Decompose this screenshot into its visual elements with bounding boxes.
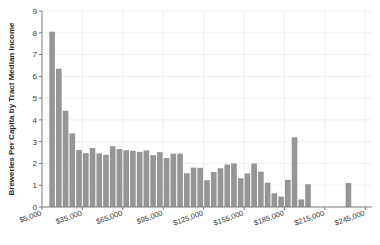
y-tick-label: 7 — [33, 50, 38, 59]
bar — [265, 183, 271, 207]
x-tick-label: $35,000 — [55, 208, 84, 226]
bar — [103, 155, 109, 207]
y-axis-ticks: 0123456789 — [33, 7, 42, 212]
y-tick-label: 3 — [33, 138, 38, 147]
bar — [69, 133, 75, 207]
bar — [56, 69, 62, 207]
bar — [346, 183, 352, 207]
y-tick-label: 9 — [33, 7, 38, 16]
bar — [90, 148, 96, 207]
chart-canvas: 0123456789 $5,000$35,000$65,000$95,000$1… — [0, 0, 380, 245]
bar — [110, 146, 116, 207]
x-tick-label: $125,000 — [172, 208, 204, 227]
bar — [305, 184, 311, 207]
y-tick-label: 4 — [33, 116, 38, 125]
bar — [245, 173, 251, 207]
bar — [157, 152, 163, 207]
bar — [144, 150, 150, 207]
y-tick-label: 5 — [33, 94, 38, 103]
bar — [171, 154, 177, 207]
bar — [292, 137, 298, 207]
y-axis-label: Breweries Per Capita by Tract Median Inc… — [7, 22, 16, 196]
bar — [272, 193, 278, 207]
y-tick-label: 8 — [33, 29, 38, 38]
bar — [224, 165, 230, 207]
bar — [204, 180, 210, 207]
bar — [83, 153, 89, 207]
bar — [298, 199, 304, 207]
bar — [96, 153, 102, 207]
bar — [130, 151, 136, 207]
x-tick-label: $215,000 — [293, 208, 325, 227]
y-tick-label: 2 — [33, 159, 38, 168]
bar — [285, 180, 291, 207]
x-tick-label: $65,000 — [95, 208, 124, 226]
bars — [49, 32, 351, 207]
bar — [63, 111, 69, 207]
bar — [251, 163, 257, 207]
bar — [231, 163, 237, 207]
bar — [117, 149, 123, 207]
brewery-income-bar-chart: 0123456789 $5,000$35,000$65,000$95,000$1… — [0, 0, 380, 245]
x-tick-label: $155,000 — [212, 208, 244, 227]
bar — [76, 150, 82, 207]
bar — [197, 168, 203, 207]
bar — [218, 168, 224, 207]
bar — [164, 158, 170, 207]
x-tick-label: $5,000 — [18, 208, 43, 224]
x-tick-label: $245,000 — [333, 208, 365, 227]
bar — [278, 197, 284, 207]
y-tick-label: 1 — [33, 181, 38, 190]
bar — [137, 152, 143, 207]
x-axis-ticks: $5,000$35,000$65,000$95,000$125,000$155,… — [18, 207, 366, 228]
bar — [177, 154, 183, 207]
bar — [49, 32, 55, 207]
x-tick-label: $185,000 — [253, 208, 285, 227]
bar — [150, 155, 156, 207]
bar — [238, 178, 244, 207]
x-tick-label: $95,000 — [135, 208, 164, 226]
bar — [184, 173, 190, 207]
y-tick-label: 6 — [33, 72, 38, 81]
bar — [123, 150, 129, 207]
bar — [258, 172, 264, 207]
bar — [191, 168, 197, 207]
bar — [211, 172, 217, 207]
